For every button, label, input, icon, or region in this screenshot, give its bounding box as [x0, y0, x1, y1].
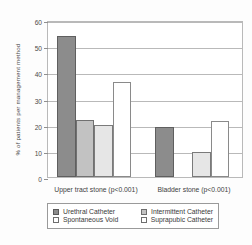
y-tick-label: 30 — [35, 97, 42, 104]
y-tick-label: 60 — [35, 19, 42, 26]
legend-label: Spontaneous Void — [63, 216, 118, 223]
legend-label: Suprapubic Catheter — [151, 216, 213, 223]
legend-label: Urethral Catheter — [63, 208, 115, 215]
bar — [113, 82, 132, 178]
y-tick-label: 50 — [35, 45, 42, 52]
bar-group — [57, 22, 131, 177]
x-category-label: Upper tract stone (p<0.001) — [54, 186, 137, 193]
tick-mark — [44, 179, 48, 180]
plot-area: 0102030405060 — [47, 21, 243, 178]
legend-row: Urethral Catheter Intermittent Catheter — [53, 208, 213, 215]
bar — [76, 120, 95, 177]
y-tick-label: 40 — [35, 71, 42, 78]
legend-item-intermittent-catheter: Intermittent Catheter — [141, 208, 213, 215]
y-axis-title: % of patients per management method — [14, 20, 21, 180]
legend-item-urethral-catheter: Urethral Catheter — [53, 208, 141, 215]
legend-row: Spontaneous Void Suprapubic Catheter — [53, 216, 213, 223]
legend-swatch-icon — [53, 217, 59, 223]
bar — [94, 125, 113, 177]
bar — [57, 36, 76, 177]
chart-legend: Urethral Catheter Intermittent Catheter … — [47, 203, 219, 229]
bar-group — [155, 22, 229, 177]
bar-series-layer — [48, 22, 242, 177]
y-tick-label: 0 — [38, 176, 42, 183]
x-category-label: Bladder stone (p<0.001) — [157, 186, 230, 193]
bar — [192, 152, 211, 177]
y-tick-label: 10 — [35, 149, 42, 156]
bar — [155, 127, 174, 177]
legend-swatch-icon — [53, 209, 59, 215]
bar — [211, 121, 230, 177]
legend-swatch-icon — [141, 217, 147, 223]
legend-item-suprapubic-catheter: Suprapubic Catheter — [141, 216, 213, 223]
bar-chart-figure: % of patients per management method 0102… — [0, 0, 252, 245]
y-tick-label: 20 — [35, 123, 42, 130]
legend-label: Intermittent Catheter — [151, 208, 213, 215]
legend-item-spontaneous-void: Spontaneous Void — [53, 216, 141, 223]
legend-swatch-icon — [141, 209, 147, 215]
